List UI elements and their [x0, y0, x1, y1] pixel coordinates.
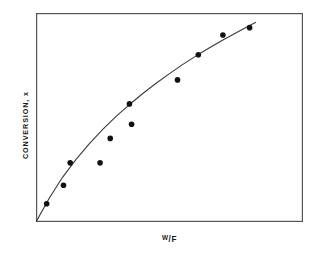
data-point — [67, 160, 73, 166]
data-point — [247, 25, 253, 31]
x-axis-label-numerator: W — [162, 234, 169, 241]
data-point — [127, 101, 133, 107]
data-point — [175, 77, 181, 83]
data-point — [44, 201, 50, 207]
data-point — [107, 136, 113, 142]
plot-frame — [37, 14, 303, 222]
data-point — [129, 121, 135, 127]
x-axis-label: W/F — [36, 234, 303, 244]
data-point — [61, 182, 67, 188]
data-point — [97, 160, 103, 166]
y-axis-label: CONVERSION, x — [21, 25, 35, 225]
x-axis-label-denominator: F — [171, 235, 177, 244]
data-point — [220, 32, 226, 38]
figure-panel-a: CONVERSION, x W/F (a) — [0, 0, 319, 261]
data-point — [196, 52, 202, 58]
plot-area — [36, 13, 303, 222]
